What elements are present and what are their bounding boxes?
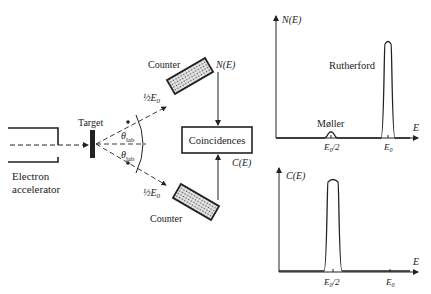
theta-bottom-label: θlab	[121, 149, 135, 163]
moller-label: Møller	[317, 118, 345, 129]
ne-xlabel: E	[412, 122, 419, 133]
target-label: Target	[78, 117, 103, 128]
ce-xlabel: E	[412, 256, 419, 267]
scatter-line-bottom	[96, 144, 166, 185]
ce-signal-label: C(E)	[232, 157, 252, 169]
ce-ylabel: C(E)	[286, 170, 306, 182]
accelerator-label-line2: accelerator	[12, 183, 61, 195]
ne-chart: N(E) E E0/2 E0 Møller Rutherford	[276, 14, 419, 153]
ce-tick-full-label: E0	[385, 277, 395, 288]
ne-ylabel: N(E)	[281, 14, 302, 26]
half-e0-bottom-label: ½E0	[143, 187, 161, 200]
rutherford-label: Rutherford	[329, 60, 376, 71]
ce-curve	[279, 180, 410, 272]
experiment-diagram: Electron accelerator Target θlab θlab ½E…	[0, 0, 431, 294]
counter-top-label: Counter	[148, 59, 181, 70]
collimator-dot-top	[126, 120, 130, 124]
accelerator-label-line1: Electron	[12, 170, 50, 182]
ne-tick-half-label: E0/2	[323, 142, 340, 153]
half-e0-top-label: ½E0	[143, 92, 161, 105]
ne-signal-label: N(E)	[215, 59, 236, 71]
counter-bottom-label: Counter	[150, 213, 183, 224]
ce-chart: C(E) E E0/2 E0	[279, 168, 419, 288]
target	[90, 130, 95, 158]
coincidences-label: Coincidences	[189, 135, 246, 146]
ne-tick-full-label: E0	[383, 142, 393, 153]
ce-tick-half-label: E0/2	[323, 277, 340, 288]
theta-top-label: θlab	[121, 130, 135, 144]
